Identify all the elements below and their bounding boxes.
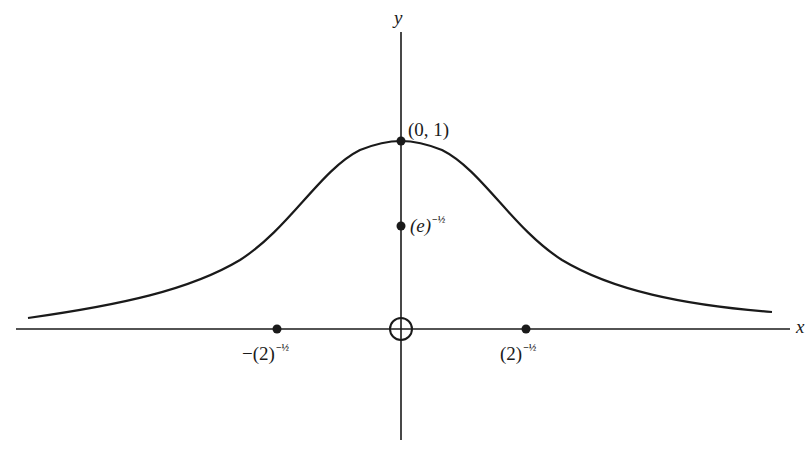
e-point-exp: −½ — [432, 214, 445, 225]
y-axis-label: y — [394, 8, 402, 27]
e-point-base: (e) — [410, 215, 431, 236]
right-inflection-base: (2) — [500, 343, 522, 364]
right-inflection-dot — [522, 325, 531, 334]
x-axis-label: x — [796, 317, 804, 336]
peak-label: (0, 1) — [408, 120, 449, 139]
right-inflection-label: (2)−½ — [500, 344, 536, 363]
peak-dot — [397, 137, 406, 146]
left-inflection-base: −(2) — [242, 343, 275, 364]
diagram-canvas — [0, 0, 812, 458]
e-point-dot — [397, 222, 406, 231]
right-inflection-exp: −½ — [523, 342, 536, 353]
left-inflection-exp: −½ — [276, 342, 289, 353]
left-inflection-dot — [273, 325, 282, 334]
left-inflection-label: −(2)−½ — [242, 344, 289, 363]
e-point-label: (e)−½ — [410, 216, 445, 235]
